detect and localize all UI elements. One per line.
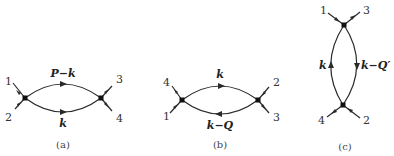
momentum-label: k [59,117,67,130]
vertex [23,96,28,101]
propagator-left [331,25,344,105]
caption: (a) [56,139,70,150]
vertex [180,98,185,103]
propagator-lower [25,98,101,112]
vertex [99,96,104,101]
momentum-label: k−Q [207,119,234,132]
leg-label: 4 [163,76,170,89]
caption: (b) [213,139,227,150]
leg-label: 1 [5,75,12,88]
momentum-label: k [319,59,327,72]
arrow-icon [60,109,67,115]
vertex [341,103,346,108]
leg-label: 2 [363,114,370,127]
diagram-a: 1 2 3 4 P−k k (a) [5,67,123,150]
leg-label: 4 [116,112,123,125]
leg-label: 3 [273,111,280,124]
momentum-label: k [216,68,224,81]
leg-label: 2 [273,76,280,89]
arrow-icon [215,111,222,117]
leg-label: 1 [163,110,170,123]
leg-label: 1 [320,4,327,17]
arrow-icon [60,81,67,87]
feynman-diagrams: 1 2 3 4 P−k k (a) 4 1 2 3 k k−Q (b) [0,0,394,156]
momentum-label: P−k [49,67,75,80]
leg-label: 2 [5,111,12,124]
leg-label: 3 [116,73,123,86]
caption: (c) [338,141,352,152]
diagram-c: 1 3 4 2 k k−Q′ (c) [318,4,390,152]
diagram-b: 4 1 2 3 k k−Q (b) [163,68,280,150]
arrow-icon [328,61,334,68]
vertex [256,98,261,103]
propagator-right [343,25,357,105]
arrow-icon [218,83,225,89]
propagator-upper [25,84,101,98]
leg-label: 3 [363,4,370,17]
leg-label: 4 [318,114,325,127]
vertex [342,23,347,28]
arrow-icon [354,63,360,70]
momentum-label: k−Q′ [361,59,390,72]
